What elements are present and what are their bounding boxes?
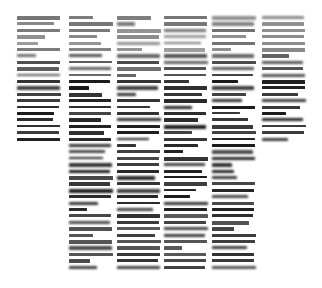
- text-line: [212, 234, 256, 237]
- text-line: [212, 144, 255, 147]
- text-line: [164, 29, 206, 33]
- text-line: [212, 125, 253, 129]
- text-line: [69, 61, 112, 64]
- text-line: [69, 99, 111, 102]
- text-line: [17, 118, 53, 121]
- text-line: [212, 35, 246, 38]
- text-line: [69, 150, 105, 153]
- text-line: [164, 106, 192, 109]
- text-line: [17, 106, 59, 109]
- text-line: [117, 189, 160, 193]
- text-line: [164, 266, 205, 269]
- text-line: [262, 131, 304, 134]
- text-line: [212, 106, 255, 109]
- text-line: [69, 80, 110, 83]
- text-line: [69, 144, 111, 147]
- text-line: [17, 22, 54, 25]
- text-line: [164, 202, 208, 206]
- text-line: [164, 227, 208, 230]
- text-line: [164, 259, 206, 262]
- text-line: [262, 125, 306, 128]
- text-line: [212, 99, 242, 102]
- text-column-6: [262, 16, 306, 145]
- text-line: [117, 16, 151, 20]
- text-line: [69, 182, 110, 185]
- text-line: [212, 112, 240, 114]
- text-line: [117, 202, 160, 205]
- text-line: [262, 106, 300, 109]
- text-column-3: [117, 16, 161, 272]
- text-line: [212, 202, 254, 205]
- text-line: [69, 67, 111, 70]
- text-line: [262, 86, 305, 89]
- text-line: [117, 234, 155, 238]
- text-line: [164, 67, 206, 70]
- text-line: [69, 163, 112, 167]
- text-line: [69, 157, 103, 160]
- text-line: [69, 259, 90, 262]
- text-line: [164, 240, 207, 243]
- text-line: [212, 42, 255, 46]
- text-line: [212, 138, 255, 141]
- text-line: [164, 35, 206, 38]
- text-line: [212, 170, 234, 173]
- text-line: [164, 182, 207, 186]
- text-line: [164, 253, 206, 256]
- text-line: [212, 253, 254, 256]
- text-line: [262, 42, 305, 45]
- text-line: [69, 93, 102, 97]
- text-line: [69, 112, 111, 115]
- text-line: [164, 86, 207, 89]
- text-line: [69, 42, 101, 45]
- text-line: [117, 138, 149, 141]
- text-line: [117, 35, 159, 39]
- text-line: [262, 99, 306, 102]
- text-line: [164, 150, 183, 153]
- text-line: [69, 202, 98, 205]
- text-line: [164, 157, 208, 161]
- text-line: [117, 176, 155, 180]
- text-line: [164, 99, 207, 103]
- text-line: [212, 189, 254, 193]
- text-line: [262, 74, 305, 78]
- text-line: [17, 138, 60, 141]
- text-line: [17, 74, 60, 77]
- text-column-2: [69, 16, 113, 272]
- text-line: [17, 67, 59, 70]
- text-line: [117, 182, 160, 185]
- text-line: [17, 42, 38, 46]
- text-line: [117, 61, 159, 65]
- text-line: [164, 170, 202, 174]
- text-line: [17, 93, 61, 96]
- text-line: [164, 234, 205, 238]
- text-line: [69, 189, 113, 193]
- text-line: [117, 144, 136, 147]
- text-line: [69, 86, 89, 89]
- text-line: [69, 246, 112, 250]
- text-line: [69, 125, 111, 128]
- text-line: [212, 157, 255, 161]
- text-line: [212, 61, 256, 64]
- text-line: [69, 253, 113, 256]
- text-line: [69, 35, 97, 38]
- text-line: [212, 67, 254, 70]
- text-line: [69, 22, 113, 26]
- text-line: [212, 48, 231, 51]
- text-line: [164, 22, 207, 26]
- text-line: [212, 246, 247, 249]
- text-line: [117, 253, 160, 256]
- text-line: [262, 61, 303, 64]
- text-line: [117, 67, 161, 71]
- text-line: [164, 93, 202, 96]
- text-line: [117, 266, 160, 270]
- text-line: [69, 240, 112, 244]
- text-line: [164, 176, 207, 178]
- text-line: [212, 22, 254, 25]
- text-line: [69, 170, 110, 173]
- text-column-5: [212, 16, 256, 272]
- text-line: [69, 131, 104, 135]
- text-line: [117, 112, 159, 115]
- text-line: [117, 74, 136, 78]
- text-line: [212, 259, 254, 262]
- text-line: [262, 80, 305, 84]
